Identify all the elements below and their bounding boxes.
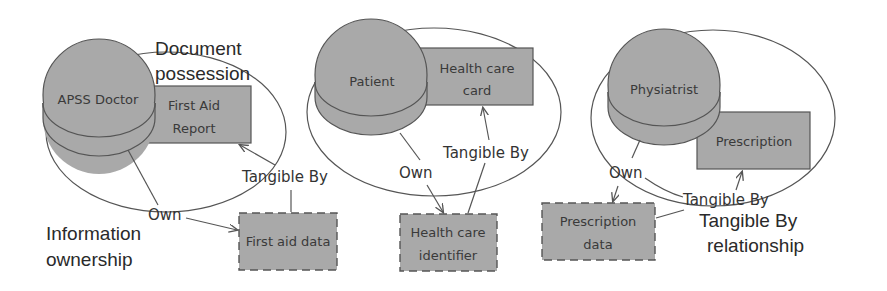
own-line [128, 150, 158, 205]
tangible-arrow [736, 172, 742, 190]
information-label: First aid data [246, 234, 331, 249]
own-label: Own [399, 164, 433, 182]
information-label: identifier [419, 248, 478, 263]
document-label: Report [172, 121, 215, 136]
own-label: Own [609, 164, 643, 182]
information-label: data [583, 237, 612, 252]
annotation-tangible-by-relationship: Tangible By [699, 210, 798, 231]
tangible-line [468, 163, 485, 213]
diagram-canvas: First Aid Report APSS Doctor First aid d… [0, 0, 887, 291]
own-line [632, 140, 640, 158]
tangible-line [656, 210, 684, 218]
document-label: Health care [440, 61, 515, 76]
information-label: Health care [411, 225, 486, 240]
tangible-arrow [483, 108, 489, 140]
annotation-information-ownership: ownership [46, 249, 133, 270]
actor-label: APSS Doctor [58, 92, 140, 107]
annotation-tangible-by-relationship: relationship [707, 235, 804, 256]
information-label: Prescription [560, 214, 637, 229]
own-label: Own [148, 206, 182, 224]
annotation-information-ownership: Information [46, 223, 141, 244]
own-arrow [186, 218, 237, 230]
tangible-label: Tangible By [241, 168, 328, 186]
own-arrow [613, 186, 618, 201]
group-patient: Health care card Patient Health care ide… [307, 19, 561, 271]
tangible-arrow [240, 145, 275, 165]
tangible-label: Tangible By [442, 144, 529, 162]
document-label: card [463, 83, 491, 98]
own-arrow [427, 185, 443, 212]
actor-label: Patient [349, 74, 394, 89]
document-label: Prescription [716, 134, 793, 149]
annotation-document-possession: Document [155, 38, 242, 59]
annotation-document-possession: possession [155, 63, 250, 84]
document-label: First Aid [168, 98, 220, 113]
own-line [400, 133, 420, 160]
actor-label: Physiatrist [630, 82, 698, 97]
tangible-label: Tangible By [682, 191, 769, 209]
